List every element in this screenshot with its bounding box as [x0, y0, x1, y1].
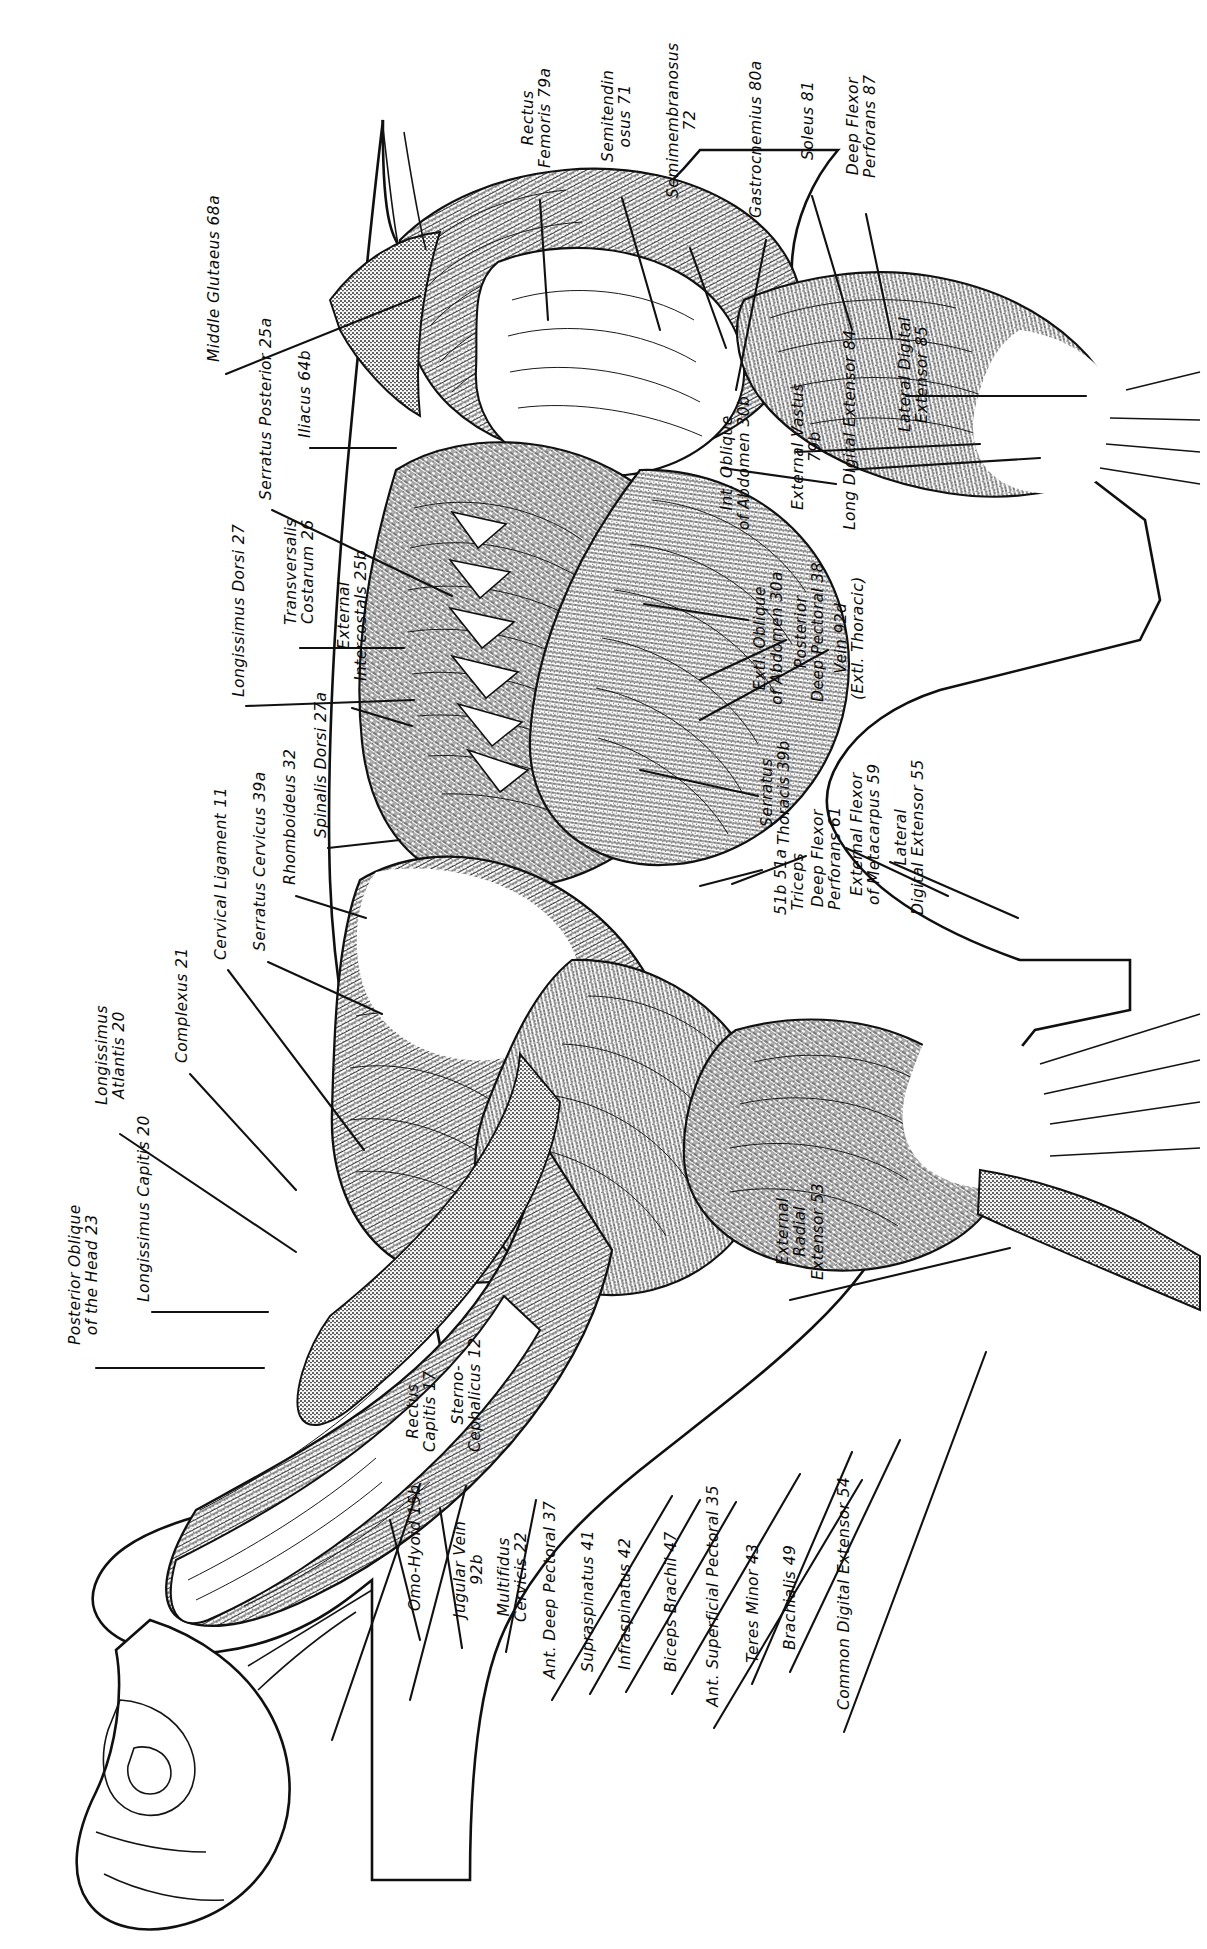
label-posterior-oblique-head-23[interactable]: Posterior Obliqueof the Head 23 [67, 1204, 102, 1345]
label-deep-flexor-perforans-87[interactable]: Deep FlexorPerforans 87 [845, 75, 880, 178]
label-serratus-thoracis-39b[interactable]: SerratusThoracis 39b [759, 740, 794, 845]
label-serratus-posterior-25a[interactable]: Serratus Posterior 25a [258, 317, 275, 500]
label-rectus-femoris[interactable]: RectusFemoris 79a [520, 68, 555, 168]
label-omo-hyoid-15b[interactable]: Omo-Hyoid 15b [407, 1484, 424, 1611]
label-middle-glutaeus-68a[interactable]: Middle Glutaeus 68a [206, 195, 223, 362]
anatomical-plate: RectusFemoris 79a Semitendinosus 71 Semi… [0, 0, 1207, 1949]
label-ant-deep-pectoral-37[interactable]: Ant. Deep Pectoral 37 [542, 1501, 559, 1679]
label-common-digital-extensor-54[interactable]: Common Digital Extensor 54 [836, 1477, 853, 1710]
label-teres-minor-43[interactable]: Teres Minor 43 [745, 1543, 762, 1663]
label-longissimus-atlantis-20[interactable]: LongissimusAtlantis 20 [94, 1005, 129, 1105]
label-serratus-cervicus-39a[interactable]: Serratus Cervicus 39a [252, 771, 269, 951]
label-lateral-digital-extensor-55[interactable]: LateralDigital Extensor 55 [893, 759, 928, 915]
label-rectus-capitis-17[interactable]: RectusCapitis 17 [405, 1370, 440, 1452]
label-semimembranosus[interactable]: Semimembranosus72 [665, 42, 700, 198]
label-infraspinatus-42[interactable]: Infraspinatus 42 [617, 1538, 634, 1670]
label-jugular-vein-92b[interactable]: Jugular Vein92b [452, 1521, 487, 1618]
label-ant-superficial-pectoral-35[interactable]: Ant. Superficial Pectoral 35 [705, 1485, 722, 1707]
label-iliacus-64b[interactable]: Iliacus 64b [297, 350, 314, 438]
label-int-oblique-abdomen-30b[interactable]: Int. Obliqueof Abdomen 30b [719, 396, 754, 530]
label-external-intercostals-25b[interactable]: ExternalIntercostals 25b [336, 550, 371, 681]
label-lateral-digital-extensor-85[interactable]: Lateral DigitalExtensor 85 [897, 317, 932, 432]
label-deep-flexor-perforans-61[interactable]: Deep FlexorPerforans 61 [810, 807, 845, 910]
label-spinalis-dorsi-27a[interactable]: Spinalis Dorsi 27a [313, 692, 330, 838]
label-gastrocnemius[interactable]: Gastrocnemius 80a [748, 60, 765, 218]
label-rhomboideus-32[interactable]: Rhomboideus 32 [282, 749, 299, 885]
label-extl-oblique-abdomen-30a[interactable]: Extl. Obliqueof Abdomen 30a [752, 571, 787, 705]
label-brachialis-49[interactable]: Brachialis 49 [782, 1545, 799, 1650]
label-supraspinatus-41[interactable]: Supraspinatus 41 [580, 1530, 597, 1672]
label-triceps-51[interactable]: 51b 51aTriceps [773, 848, 808, 915]
label-external-radial-extensor-53[interactable]: ExternalRadialExtensor 53 [775, 1183, 827, 1280]
label-posterior-deep-pectoral-38[interactable]: PosteriorDeep Pectoral 38 [793, 562, 828, 702]
label-transversalis-costarum-26[interactable]: TransversalisCostarum 26 [283, 518, 318, 625]
label-multifidus-cervicis-22[interactable]: MultifidusCervicis 22 [496, 1532, 531, 1622]
label-longissimus-dorsi-27[interactable]: Longissimus Dorsi 27 [231, 524, 248, 697]
label-biceps-brachii-47[interactable]: Biceps Brachii 47 [663, 1531, 680, 1672]
label-vein-92d[interactable]: Vein 92d(Extl. Thoracic) [833, 576, 868, 700]
label-long-digital-extensor-84[interactable]: Long Digital Extensor 84 [842, 330, 859, 531]
label-external-flexor-metacarpus-59[interactable]: External Flexorof Metacarpus 59 [849, 763, 884, 905]
label-complexus-21[interactable]: Complexus 21 [174, 947, 191, 1063]
label-semitendinosus[interactable]: Semitendinosus 71 [600, 70, 635, 162]
label-sterno-cephalicus-12[interactable]: Sterno-Cephalicus 12 [450, 1338, 485, 1452]
label-external-vastus-79b[interactable]: External Vastus79b [790, 383, 825, 510]
label-soleus[interactable]: Soleus 81 [800, 81, 817, 160]
label-cervical-ligament-11[interactable]: Cervical Ligament 11 [213, 787, 230, 960]
label-longissimus-capitis-20[interactable]: Longissimus Capitis 20 [136, 1115, 153, 1302]
